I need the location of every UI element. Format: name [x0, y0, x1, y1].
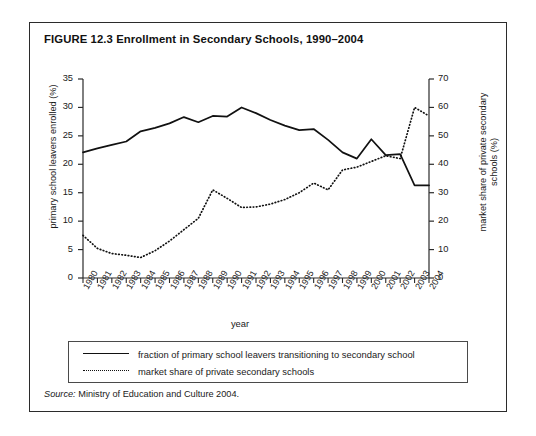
source-label: Source: [44, 389, 76, 399]
y-left-ticks [78, 79, 83, 278]
x-axis-title: year [30, 318, 450, 329]
y-right-tick-label: 50 [438, 130, 462, 140]
legend-item-solid: fraction of primary school leavers trans… [83, 346, 415, 362]
legend-line-solid-icon [83, 349, 129, 359]
chart-legend: fraction of primary school leavers trans… [68, 341, 468, 383]
data-series-group [83, 107, 429, 257]
y-right-tick-label: 30 [438, 187, 462, 197]
y-left-tick-label: 0 [49, 272, 73, 282]
y-right-tick-label: 70 [438, 73, 462, 83]
y-right-tick-label: 40 [438, 158, 462, 168]
figure-frame: FIGURE 12.3 Enrollment in Secondary Scho… [29, 22, 507, 412]
source-text: Ministry of Education and Culture 2004. [76, 389, 239, 399]
y-right-tick-label: 20 [438, 215, 462, 225]
legend-label-dotted: market share of private secondary school… [138, 366, 314, 377]
y-right-ticks [429, 79, 434, 278]
y-right-tick-label: 60 [438, 101, 462, 111]
series-line-dotted [83, 107, 429, 257]
legend-line-dotted-icon [83, 366, 129, 376]
y-left-tick-label: 5 [49, 244, 73, 254]
y-right-axis-title: market share of private secondary school… [478, 77, 500, 247]
series-line-solid [83, 107, 429, 185]
y-left-axis-title: primary school leavers enrolled (%) [48, 72, 59, 242]
source-note: Source: Ministry of Education and Cultur… [44, 389, 239, 399]
axes [83, 79, 429, 278]
legend-label-solid: fraction of primary school leavers trans… [138, 349, 415, 360]
y-right-tick-label: 10 [438, 244, 462, 254]
legend-item-dotted: market share of private secondary school… [83, 363, 314, 379]
